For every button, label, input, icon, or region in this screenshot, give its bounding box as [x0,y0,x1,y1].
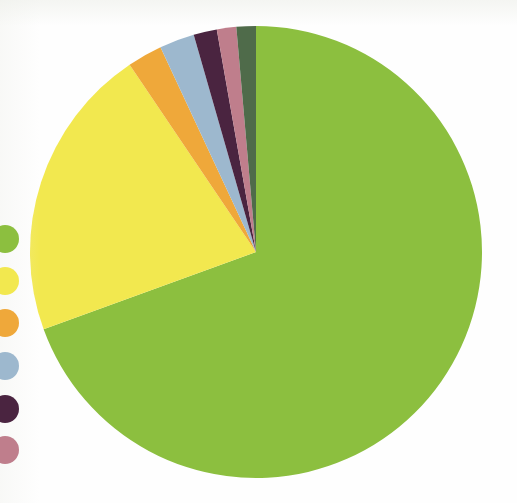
legend-dot-icon [0,225,19,253]
legend-dot-icon [0,352,19,380]
legend-dot-icon [0,395,19,423]
chart-page [0,0,517,503]
legend-item[interactable] [0,352,19,380]
chart-legend [0,0,40,503]
legend-item[interactable] [0,395,19,423]
legend-dot-icon [0,309,19,337]
pie-slice-group [30,26,482,478]
legend-dot-icon [0,436,19,464]
legend-item[interactable] [0,436,19,464]
legend-item[interactable] [0,267,19,295]
pie-chart[interactable] [0,0,517,503]
legend-item[interactable] [0,225,19,253]
legend-item[interactable] [0,309,19,337]
legend-dot-icon [0,267,19,295]
